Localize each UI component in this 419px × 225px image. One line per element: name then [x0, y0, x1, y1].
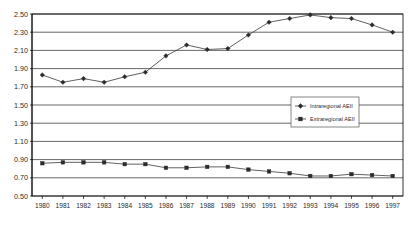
x-axis-tick-label: 1991	[262, 202, 277, 209]
data-point-marker	[329, 174, 333, 178]
data-point-marker	[205, 165, 209, 169]
y-axis-tick-label: 2.10	[14, 46, 28, 55]
x-axis-tick-label: 1984	[117, 202, 132, 209]
legend-sample-marker	[299, 117, 303, 121]
y-axis-tick-label: 1.30	[14, 119, 28, 128]
data-point-marker	[391, 174, 395, 178]
x-axis-tick-label: 1997	[385, 202, 400, 209]
y-axis-tick-label: 1.70	[14, 82, 28, 91]
x-axis-tick-label: 1993	[303, 202, 318, 209]
legend-label: Intraregional AEII	[310, 103, 353, 109]
y-axis-tick-label: 0.70	[14, 173, 28, 182]
x-axis-tick-label: 1996	[365, 202, 380, 209]
x-axis-tick-label: 1985	[138, 202, 153, 209]
data-point-marker	[82, 161, 86, 165]
data-point-marker	[370, 173, 374, 177]
data-point-marker	[226, 165, 230, 169]
y-axis-tick-label: 2.50	[14, 10, 28, 19]
y-axis-tick-label: 2.30	[14, 28, 28, 37]
x-axis-tick-label: 1986	[159, 202, 174, 209]
data-point-marker	[350, 172, 354, 176]
data-point-marker	[164, 166, 168, 170]
line-chart: 2.502.302.101.901.701.501.301.100.900.70…	[0, 0, 419, 225]
data-point-marker	[41, 161, 45, 165]
data-point-marker	[61, 161, 65, 165]
x-axis-tick-label: 1988	[200, 202, 215, 209]
y-axis-tick-label: 0.50	[14, 192, 28, 201]
legend-box[interactable]	[291, 97, 359, 127]
x-axis-tick-label: 1994	[324, 202, 339, 209]
y-axis-tick-label: 0.90	[14, 155, 28, 164]
x-axis-tick-label: 1995	[344, 202, 359, 209]
y-axis-tick-label: 1.50	[14, 101, 28, 110]
x-axis-tick-label: 1992	[282, 202, 297, 209]
data-point-marker	[267, 170, 271, 174]
y-axis-tick-label: 1.10	[14, 137, 28, 146]
data-point-marker	[102, 161, 106, 165]
data-point-marker	[123, 162, 127, 166]
chart-legend[interactable]: Intraregional AEIIExtraregional AEII	[291, 97, 359, 127]
x-axis-tick-label: 1983	[97, 202, 112, 209]
data-point-marker	[185, 166, 189, 170]
x-axis-tick-label: 1987	[179, 202, 194, 209]
y-axis-tick-label: 1.90	[14, 64, 28, 73]
data-point-marker	[308, 174, 312, 178]
x-axis-tick-label: 1989	[220, 202, 235, 209]
data-point-marker	[144, 162, 148, 166]
x-axis-tick-label: 1990	[241, 202, 256, 209]
x-axis-tick-label: 1981	[56, 202, 71, 209]
legend-label: Extraregional AEII	[310, 116, 355, 122]
data-point-marker	[247, 168, 251, 172]
chart-container: 2.502.302.101.901.701.501.301.100.900.70…	[0, 0, 419, 225]
data-point-marker	[288, 171, 292, 175]
x-axis-tick-label: 1982	[76, 202, 91, 209]
x-axis-tick-label: 1980	[35, 202, 50, 209]
